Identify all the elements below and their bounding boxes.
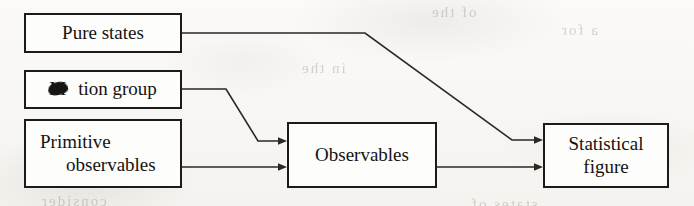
node-statistical-figure-line1: Statistical xyxy=(545,133,667,155)
showthrough-text: in the xyxy=(300,60,346,77)
arrowhead-icon xyxy=(534,163,543,171)
node-observables[interactable]: Observables xyxy=(287,122,437,188)
showthrough-text: a for xyxy=(560,22,598,39)
showthrough-text: consider xyxy=(40,193,107,206)
diagram-canvas: of the a for in the consider states of P… xyxy=(0,0,694,206)
showthrough-text: of the xyxy=(430,4,477,21)
node-motion-group-label-part2: tion group xyxy=(78,78,157,99)
arrowhead-icon xyxy=(278,137,287,145)
node-statistical-figure-label: Statistical figure xyxy=(545,133,667,178)
node-primitive-observables-label: Primitive observables xyxy=(26,131,180,176)
node-primitive-observables-line1: Primitive xyxy=(40,131,111,152)
arrowhead-icon xyxy=(278,163,287,171)
node-primitive-observables-line2: observables xyxy=(40,154,180,176)
node-statistical-figure[interactable]: Statistical figure xyxy=(543,123,669,188)
node-pure-states[interactable]: Pure states xyxy=(24,13,182,53)
node-motion-group-label-part1: M xyxy=(49,78,66,99)
node-observables-label: Observables xyxy=(289,144,435,166)
node-motion-group[interactable]: Mtion group xyxy=(24,70,182,109)
node-pure-states-label: Pure states xyxy=(26,22,180,44)
node-statistical-figure-line2: figure xyxy=(545,156,667,178)
node-primitive-observables[interactable]: Primitive observables xyxy=(24,119,182,188)
showthrough-text: states of xyxy=(470,196,538,206)
node-motion-group-label: Mtion group xyxy=(26,78,180,100)
arrowhead-icon xyxy=(534,136,543,144)
edge-motion-group-to-observables xyxy=(182,89,278,141)
